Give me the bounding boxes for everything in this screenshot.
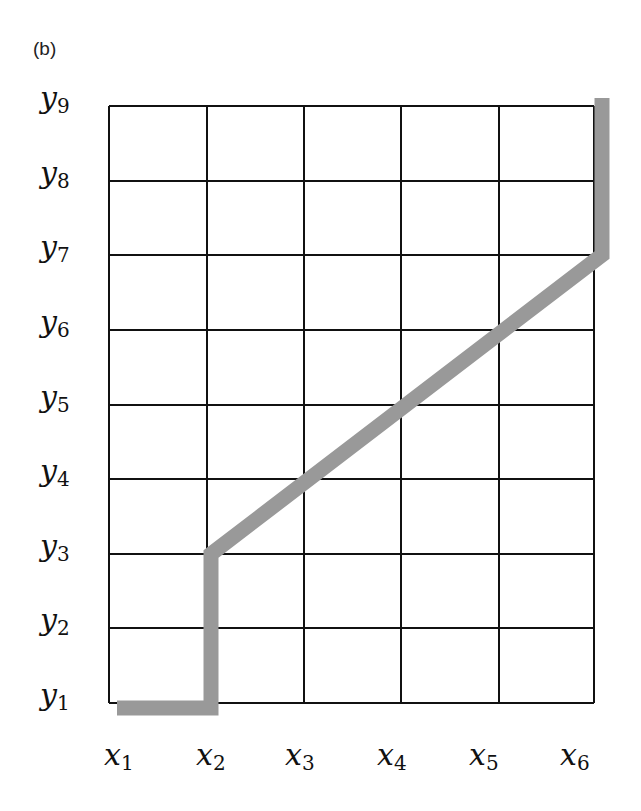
- warping-grid: [0, 0, 641, 811]
- x-label-4: x4: [377, 740, 407, 773]
- y-label-5: y5: [40, 382, 70, 415]
- y-label-1: y1: [40, 680, 70, 713]
- y-label-3: y3: [40, 531, 70, 564]
- x-label-3: x3: [285, 740, 315, 773]
- y-label-2: y2: [40, 605, 70, 638]
- x-label-1: x1: [104, 740, 134, 773]
- warping-path: [117, 98, 602, 708]
- grid-lines: [109, 106, 594, 703]
- y-label-4: y4: [40, 456, 70, 489]
- x-label-2: x2: [196, 740, 226, 773]
- y-label-9: y9: [40, 83, 70, 116]
- y-label-8: y8: [40, 158, 70, 191]
- y-label-6: y6: [40, 307, 70, 340]
- x-label-6: x6: [560, 740, 590, 773]
- x-label-5: x5: [469, 740, 499, 773]
- y-label-7: y7: [40, 232, 70, 265]
